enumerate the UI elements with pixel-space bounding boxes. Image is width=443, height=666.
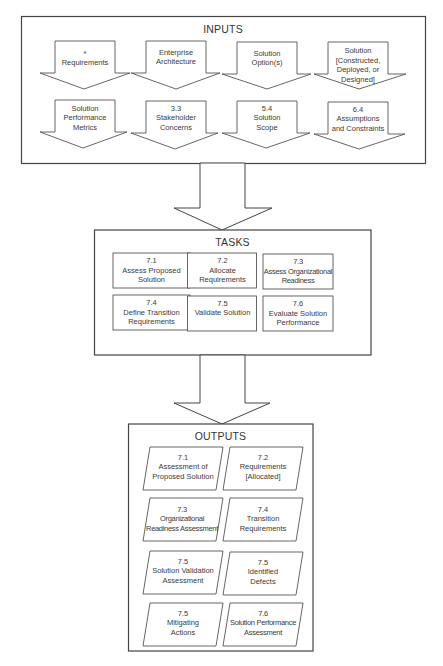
output-label-1: 7.1 Assessment of Proposed Solution bbox=[143, 447, 223, 487]
task-label-1: 7.1 Assess Proposed Solution bbox=[113, 253, 190, 288]
task-label-6: 7.6 Evaluate Solution Performance bbox=[263, 296, 333, 331]
task-label-5: 7.5 Validate Solution bbox=[188, 296, 257, 320]
input-label-8: 6.4 Assumptions and Constraints bbox=[318, 104, 398, 134]
outputs-title: OUTPUTS bbox=[128, 430, 313, 442]
task-label-3: 7.3 Assess Organizational Readiness bbox=[263, 254, 333, 289]
flow-arrow-tasks-to-outputs bbox=[174, 355, 270, 424]
flow-arrow-inputs-to-tasks bbox=[174, 163, 272, 230]
input-label-2: Enterprise Architecture bbox=[146, 42, 206, 72]
output-label-3: 7.3 Organizational Readiness Assessment bbox=[142, 498, 222, 540]
task-label-2: 7.2 Allocate Requirements bbox=[188, 253, 257, 288]
inputs-title: INPUTS bbox=[21, 23, 425, 35]
output-label-7: 7.5 Mitigating Actions bbox=[143, 603, 223, 643]
output-label-4: 7.4 Transition Requirements bbox=[223, 498, 303, 540]
output-label-6: 7.5 Identified Defects bbox=[223, 552, 303, 592]
input-label-5: Solution Performance Metrics bbox=[45, 103, 125, 133]
input-label-4: Solution [Constructed, Deployed, or Desi… bbox=[318, 43, 398, 87]
output-label-8: 7.6 Solution Performance Assessment bbox=[222, 603, 304, 643]
input-label-3: Solution Option(s) bbox=[237, 42, 297, 74]
output-label-2: 7.2 Requirements [Allocated] bbox=[223, 447, 303, 487]
task-label-4: 7.4 Define Transition Requirements bbox=[113, 295, 190, 330]
tasks-title: TASKS bbox=[94, 236, 371, 248]
output-label-5: 7.5 Solution Validation Assessment bbox=[143, 551, 223, 591]
input-label-1: * Requirements bbox=[55, 42, 115, 74]
tasks-container bbox=[95, 230, 372, 355]
input-label-6: 3.3 Stakeholder Concerns bbox=[136, 103, 216, 133]
input-label-7: 5.4 Solution Scope bbox=[227, 103, 307, 133]
